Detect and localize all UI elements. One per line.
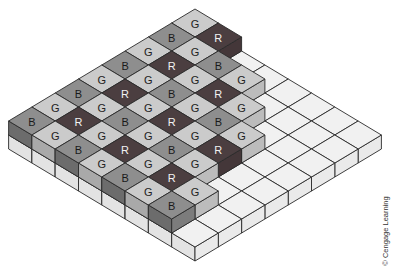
credit-text: © Cengage Learning bbox=[381, 196, 390, 265]
cube-label: B bbox=[168, 200, 175, 212]
cube-label: R bbox=[214, 144, 222, 156]
cube-label: G bbox=[237, 130, 246, 142]
cube-label: B bbox=[168, 32, 175, 44]
cube-label: R bbox=[75, 116, 83, 128]
cube-label: G bbox=[98, 158, 107, 170]
cube-label: G bbox=[237, 74, 246, 86]
cube-label: B bbox=[215, 60, 222, 72]
cube-label: B bbox=[215, 116, 222, 128]
cube-label: B bbox=[75, 144, 82, 156]
cube-label: B bbox=[121, 172, 128, 184]
cube-label: G bbox=[191, 130, 200, 142]
cube-label: G bbox=[98, 130, 107, 142]
cube-label: G bbox=[191, 102, 200, 114]
cube-label: G bbox=[191, 18, 200, 30]
cube-label: B bbox=[121, 60, 128, 72]
cube-label: G bbox=[191, 186, 200, 198]
cube-label: G bbox=[144, 186, 153, 198]
cube-label: G bbox=[191, 74, 200, 86]
cube-label: R bbox=[168, 60, 176, 72]
cube-label: G bbox=[237, 102, 246, 114]
cube-label: B bbox=[121, 116, 128, 128]
cube-label: R bbox=[214, 32, 222, 44]
cube-label: R bbox=[168, 116, 176, 128]
cube-label: G bbox=[144, 102, 153, 114]
cube-label: G bbox=[98, 74, 107, 86]
cube-label: R bbox=[121, 144, 129, 156]
cube-label: B bbox=[28, 116, 35, 128]
cube-label: R bbox=[121, 88, 129, 100]
cube-label: G bbox=[51, 130, 60, 142]
isometric-cube-diagram: GBRGGBRBGGGGBRBRGGGGGBRBRBGGGGGBRBRGGGBR… bbox=[0, 0, 395, 269]
cube-label: G bbox=[191, 46, 200, 58]
cube-label: G bbox=[144, 46, 153, 58]
cube-label: B bbox=[168, 144, 175, 156]
cube-label: R bbox=[168, 172, 176, 184]
cube-label: G bbox=[191, 158, 200, 170]
cube-label: G bbox=[144, 130, 153, 142]
cube-label: G bbox=[144, 158, 153, 170]
cube-label: G bbox=[51, 102, 60, 114]
copyright-credit: © Cengage Learning bbox=[379, 196, 391, 266]
cube-label: R bbox=[214, 88, 222, 100]
cube-label: B bbox=[75, 88, 82, 100]
cube-label: G bbox=[144, 74, 153, 86]
cube-label: G bbox=[98, 102, 107, 114]
cube-label: B bbox=[168, 88, 175, 100]
